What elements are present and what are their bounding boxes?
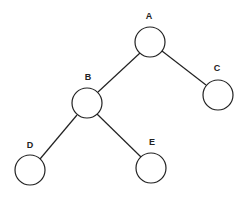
- edge-b-e: [97, 114, 141, 157]
- node-d-circle: [15, 155, 45, 185]
- node-e-label: E: [149, 137, 155, 147]
- edge-a-c: [162, 51, 206, 85]
- node-b-circle: [72, 88, 102, 118]
- edge-a-b: [98, 53, 140, 92]
- node-e-circle: [136, 153, 166, 183]
- edge-b-d: [40, 115, 77, 159]
- node-e: E: [136, 137, 166, 183]
- node-c-label: C: [214, 63, 221, 73]
- node-d: D: [15, 140, 45, 185]
- tree-diagram: A B C D E: [0, 0, 245, 200]
- node-c: C: [203, 63, 233, 110]
- edges: [40, 51, 206, 159]
- node-a-label: A: [146, 11, 153, 21]
- node-c-circle: [203, 80, 233, 110]
- node-b: B: [72, 72, 102, 118]
- node-a: A: [135, 11, 165, 57]
- node-d-label: D: [27, 140, 34, 150]
- node-b-label: B: [85, 72, 92, 82]
- node-a-circle: [135, 27, 165, 57]
